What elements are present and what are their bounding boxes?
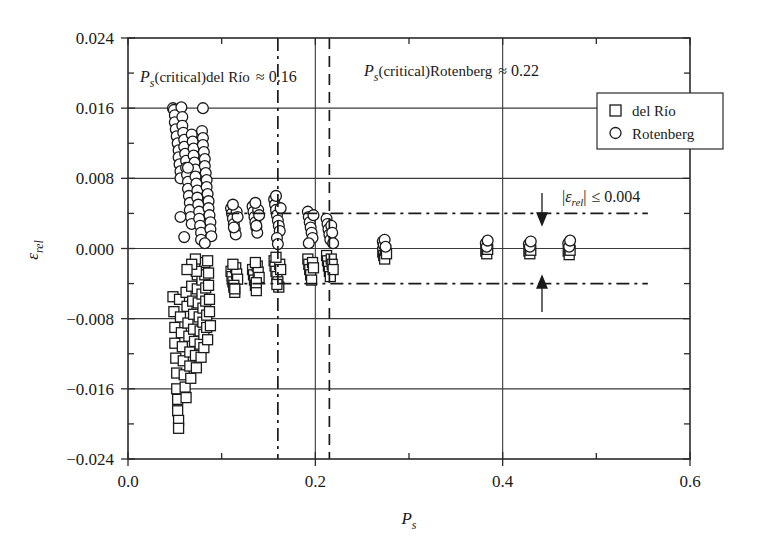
chart-figure: 0.0240.0160.0080.000−0.008−0.016−0.024 0…: [0, 0, 782, 542]
y-axis-tick-labels: 0.0240.0160.0080.000−0.008−0.016−0.024: [66, 29, 114, 469]
y-tick-label: −0.008: [66, 310, 114, 329]
annotation-rotenberg-p: P: [363, 62, 374, 79]
data-point-rotenberg: [303, 238, 314, 249]
y-tick-label: −0.016: [66, 380, 114, 399]
data-point-rotenberg: [482, 235, 493, 246]
data-point-del-rio: [251, 278, 261, 288]
data-point-del-rio: [173, 406, 183, 416]
x-axis-tick-labels: 0.00.20.40.6: [117, 472, 700, 491]
data-point-rotenberg: [199, 238, 210, 249]
data-point-del-rio: [272, 279, 282, 289]
legend-label-del-rio: del Río: [632, 103, 676, 119]
data-point-del-rio: [228, 259, 238, 269]
data-point-del-rio: [308, 263, 318, 273]
data-point-del-rio: [204, 294, 214, 304]
data-point-del-rio: [186, 373, 196, 383]
data-point-del-rio: [203, 335, 213, 345]
data-point-del-rio: [205, 321, 215, 331]
data-point-rotenberg: [254, 210, 265, 221]
data-point-rotenberg: [250, 197, 261, 208]
data-point-rotenberg: [251, 220, 262, 231]
data-point-del-rio: [191, 363, 201, 373]
x-tick-label: 0.0: [117, 472, 138, 491]
x-tick-label: 0.6: [679, 472, 700, 491]
legend: del Río Rotenberg: [597, 93, 723, 149]
y-tick-label: −0.024: [66, 450, 114, 469]
legend-label-rotenberg: Rotenberg: [632, 126, 695, 142]
y-tick-label: 0.016: [76, 99, 114, 118]
tolerance-sub: rel: [572, 196, 584, 208]
y-tick-label: 0.000: [76, 240, 114, 259]
data-point-rotenberg: [308, 210, 319, 221]
annotation-delrio-p: P: [139, 68, 150, 85]
y-axis-title-sub: rel: [32, 240, 46, 254]
annotation-rotenberg-approx: ≈ 0.22: [498, 62, 539, 79]
scatter-plot-svg: 0.0240.0160.0080.000−0.008−0.016−0.024 0…: [0, 0, 782, 542]
data-point-del-rio: [204, 280, 214, 290]
data-point-del-rio: [182, 265, 192, 275]
y-axis-title: εrel: [23, 240, 46, 260]
data-point-rotenberg: [525, 236, 536, 247]
data-point-rotenberg: [198, 103, 209, 114]
x-tick-label: 0.4: [492, 472, 514, 491]
annotation-delrio-approx: ≈ 0.16: [256, 68, 297, 85]
data-point-rotenberg: [228, 199, 239, 210]
y-tick-label: 0.024: [76, 29, 115, 48]
tolerance-rest: ≤ 0.004: [592, 188, 641, 205]
x-axis-title-main: P: [400, 509, 411, 528]
tolerance-bar-close: |: [583, 188, 586, 206]
x-tick-label: 0.2: [305, 472, 326, 491]
legend-marker-rotenberg: [610, 128, 621, 139]
annotation-delrio-paren: (critical)del Río: [154, 69, 249, 86]
data-point-rotenberg: [179, 232, 190, 243]
data-point-rotenberg: [183, 162, 194, 173]
svg-text:εrel: εrel: [23, 240, 46, 260]
data-point-del-rio: [181, 393, 191, 403]
data-point-rotenberg: [327, 227, 338, 238]
data-point-rotenberg: [175, 212, 186, 223]
data-point-rotenberg: [228, 222, 239, 233]
data-point-del-rio: [204, 307, 214, 317]
data-point-del-rio: [204, 268, 214, 278]
data-point-del-rio: [230, 284, 240, 294]
data-point-del-rio: [174, 423, 184, 433]
data-point-del-rio: [196, 352, 206, 362]
data-point-del-rio: [271, 252, 281, 262]
data-point-rotenberg: [271, 190, 282, 201]
data-point-rotenberg: [275, 203, 286, 214]
annotation-rotenberg-paren: (critical)Rotenberg: [378, 63, 492, 80]
data-point-del-rio: [250, 258, 260, 268]
data-point-rotenberg: [565, 235, 576, 246]
x-axis-title: Ps: [400, 509, 416, 532]
legend-marker-del-rio: [610, 105, 621, 116]
y-tick-label: 0.008: [76, 169, 114, 188]
x-axis-title-sub: s: [412, 518, 417, 532]
data-point-del-rio: [203, 256, 213, 266]
data-point-rotenberg: [380, 241, 391, 252]
